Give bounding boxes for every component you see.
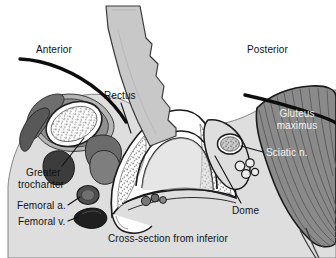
anatomy-figure: Anterior Posterior Rectus Gluteus maximu…	[0, 0, 336, 258]
label-sciatic-nerve: Sciatic n.	[266, 147, 308, 159]
label-gluteus-maximus-line2: maximus	[268, 120, 326, 132]
label-femoral-artery: Femoral a.	[17, 200, 66, 212]
label-rectus: Rectus	[104, 90, 136, 102]
label-femoral-vein: Femoral v.	[18, 216, 66, 228]
label-greater-trochanter-line1: Greater	[26, 167, 61, 179]
label-greater-trochanter-line2: trochanter	[18, 179, 64, 191]
sciatic-nerve	[218, 134, 243, 154]
femoral-artery	[77, 186, 99, 205]
label-dome: Dome	[232, 205, 259, 217]
label-anterior: Anterior	[36, 44, 72, 56]
figure-caption: Cross-section from inferior	[68, 233, 268, 245]
label-posterior: Posterior	[247, 44, 288, 56]
label-gluteus-maximus-line1: Gluteus	[268, 108, 326, 120]
